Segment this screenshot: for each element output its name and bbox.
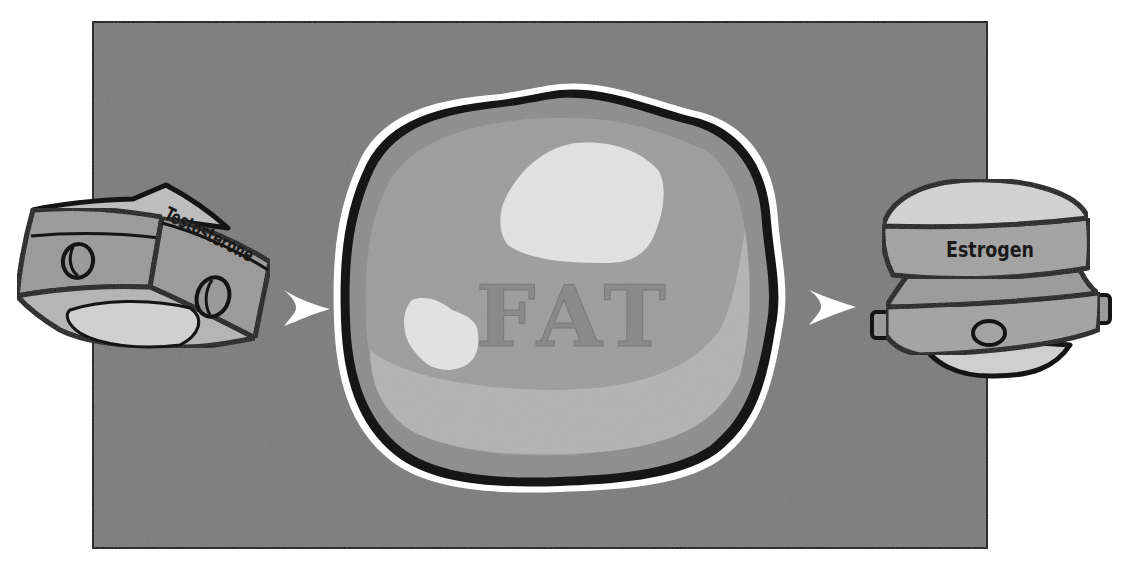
- estrogen-button: [973, 321, 1005, 345]
- fat-cell: FAT: [334, 83, 786, 492]
- estrogen-label: Estrogen: [946, 237, 1034, 262]
- diagram-canvas: FAT Testosterone: [0, 0, 1139, 566]
- estrogen-container: Estrogen: [872, 180, 1110, 376]
- fat-label: FAT: [476, 267, 672, 366]
